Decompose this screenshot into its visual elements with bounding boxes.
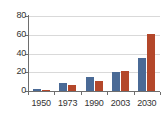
bar-1990-series-1 (86, 77, 94, 91)
x-axis-line (28, 91, 160, 92)
plot-area (28, 16, 160, 91)
x-tick-mark (107, 92, 108, 95)
x-tick-mark (28, 92, 29, 95)
bar-1973-series-1 (59, 83, 67, 91)
bar-1990-series-2 (95, 81, 103, 91)
x-tick-mark (160, 92, 161, 95)
bar-2030-series-1 (138, 58, 146, 91)
x-tick-mark (81, 92, 82, 95)
bar-2003-series-2 (121, 71, 129, 91)
x-tick-mark (134, 92, 135, 95)
x-tick-mark (54, 92, 55, 95)
gridline (28, 35, 160, 36)
y-tick-label: 80 (2, 11, 26, 20)
y-tick-label: 20 (2, 67, 26, 76)
gridline (28, 54, 160, 55)
x-tick-label-2030: 2030 (132, 98, 162, 108)
bar-2003-series-1 (112, 72, 120, 91)
bar-2030-series-2 (147, 34, 155, 91)
bar-chart: 020406080 19501973199020032030 (0, 0, 164, 118)
y-tick-label: 0 (2, 86, 26, 95)
gridline (28, 16, 160, 17)
y-tick-label: 40 (2, 49, 26, 58)
y-tick-label: 60 (2, 30, 26, 39)
